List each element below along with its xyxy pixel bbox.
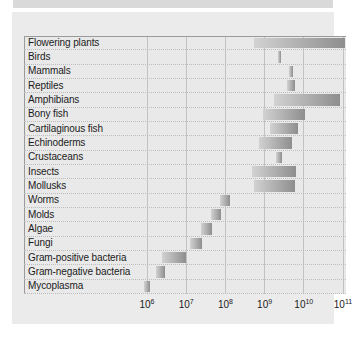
x-tick-label-1e7: 107 (179, 298, 194, 310)
range-bar (254, 38, 345, 48)
bar-row: Reptiles (24, 79, 346, 93)
range-bar (287, 80, 296, 91)
bar-row: Worms (24, 194, 346, 208)
category-label: Amphibians (28, 95, 79, 105)
x-tick-label-1e11: 1011 (334, 298, 352, 310)
category-label: Reptiles (28, 81, 63, 91)
x-tick-label-1e10: 1010 (294, 298, 313, 310)
category-label: Algae (28, 224, 53, 234)
bar-row: Mycoplasma (24, 280, 346, 294)
category-label: Mammals (28, 66, 71, 76)
bar-row: Echinoderms (24, 136, 346, 150)
range-bar (274, 94, 339, 105)
category-label: Bony fish (28, 109, 68, 119)
range-bar (211, 209, 221, 220)
bar-row: Crustaceans (24, 151, 346, 165)
bar-row: Flowering plants (24, 36, 346, 50)
bar-row: Mammals (24, 65, 346, 79)
range-bar (220, 195, 231, 206)
bar-row: Gram-negative bacteria (24, 265, 346, 279)
bar-row: Algae (24, 222, 346, 236)
chart-figure: Flowering plantsBirdsMammalsReptilesAmph… (12, 12, 334, 324)
plot-area: Flowering plantsBirdsMammalsReptilesAmph… (24, 36, 346, 294)
category-label: Molds (28, 210, 54, 220)
range-bar (276, 152, 282, 163)
category-label: Gram-negative bacteria (28, 267, 130, 277)
x-axis: 10610710810910101011 (24, 294, 346, 324)
category-label: Worms (28, 195, 59, 205)
range-bar (201, 223, 212, 234)
range-bar (252, 166, 296, 177)
category-label: Flowering plants (28, 38, 99, 48)
category-label: Mycoplasma (28, 281, 83, 291)
bar-row: Cartilaginous fish (24, 122, 346, 136)
range-bar (254, 180, 296, 191)
bar-row: Gram-positive bacteria (24, 251, 346, 265)
bar-row: Bony fish (24, 108, 346, 122)
bar-row: Insects (24, 165, 346, 179)
range-bar (190, 238, 202, 249)
x-tick-label-1e8: 108 (218, 298, 233, 310)
range-bar (270, 123, 297, 134)
range-bar (144, 281, 150, 292)
top-decorative-strip (13, 0, 333, 8)
category-label: Mollusks (28, 181, 66, 191)
bar-row: Amphibians (24, 93, 346, 107)
range-bar (263, 109, 305, 120)
x-tick-label-1e6: 106 (139, 298, 154, 310)
category-label: Insects (28, 167, 59, 177)
category-label: Birds (28, 52, 50, 62)
category-label: Fungi (28, 238, 53, 248)
bar-row: Molds (24, 208, 346, 222)
range-bar (278, 51, 281, 62)
bar-row: Mollusks (24, 179, 346, 193)
range-bar (162, 252, 186, 263)
category-label: Cartilaginous fish (28, 124, 103, 134)
bar-row: Birds (24, 50, 346, 64)
range-bar (156, 266, 165, 277)
category-label: Gram-positive bacteria (28, 253, 126, 263)
range-bar (259, 137, 292, 148)
category-label: Crustaceans (28, 152, 83, 162)
category-label: Echinoderms (28, 138, 85, 148)
range-bar (289, 66, 293, 77)
bar-row: Fungi (24, 237, 346, 251)
x-tick-label-1e9: 109 (257, 298, 272, 310)
